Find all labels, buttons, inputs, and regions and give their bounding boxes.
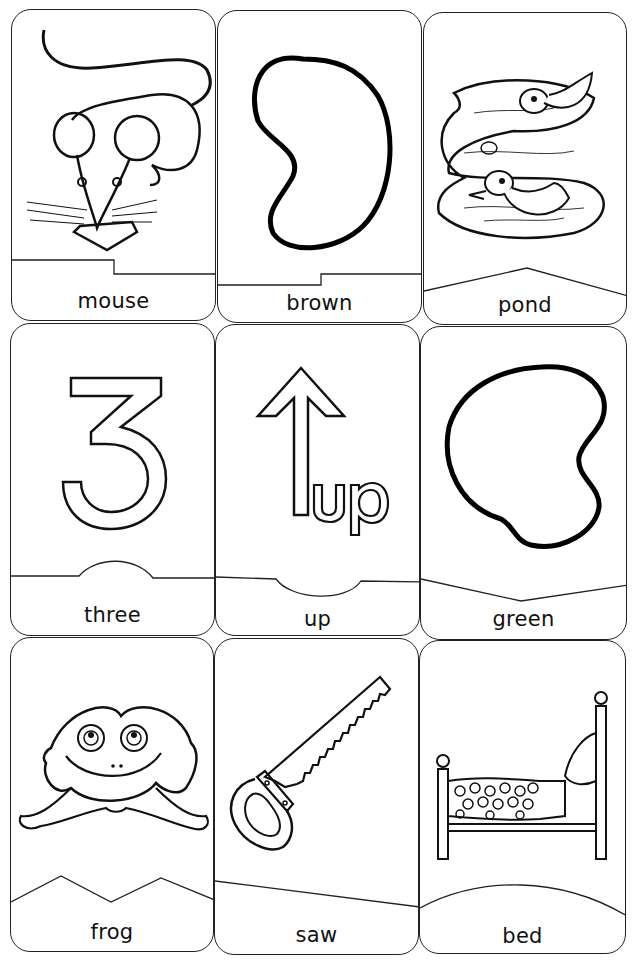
card-word-saw: saw xyxy=(215,923,418,947)
pond-icon xyxy=(424,13,627,325)
saw-icon xyxy=(215,639,419,955)
card-word-three: three xyxy=(11,603,214,627)
card-brown: brown xyxy=(217,10,422,323)
card-bed: bed xyxy=(419,640,626,954)
card-word-green: green xyxy=(421,607,626,631)
frog-icon xyxy=(11,638,214,952)
card-word-pond: pond xyxy=(424,293,626,317)
bean-shape-icon xyxy=(218,11,422,323)
up-arrow-icon xyxy=(216,325,420,636)
number-three-icon xyxy=(11,324,215,636)
card-word-bed: bed xyxy=(420,924,625,948)
card-three: three xyxy=(10,323,215,636)
card-word-brown: brown xyxy=(218,291,421,315)
card-mouse: mouse xyxy=(11,9,216,321)
card-saw: saw xyxy=(214,638,419,955)
card-word-frog: frog xyxy=(11,920,213,944)
card-up: up xyxy=(215,324,420,636)
card-frog: frog xyxy=(10,637,214,952)
card-green: green xyxy=(420,326,627,640)
mouse-icon xyxy=(12,10,216,321)
card-word-up: up xyxy=(216,607,419,631)
card-word-mouse: mouse xyxy=(12,289,215,313)
blob-shape-icon xyxy=(421,327,627,640)
card-pond: pond xyxy=(423,12,627,325)
bed-icon xyxy=(420,641,626,954)
